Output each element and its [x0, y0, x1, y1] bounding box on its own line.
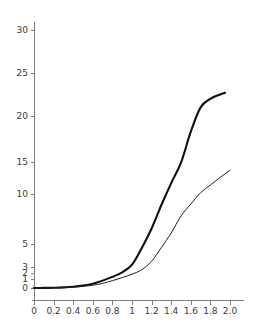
x-tick-label: 1.8 [203, 306, 218, 316]
plot-background [0, 0, 258, 328]
y-tick-label: 20 [17, 111, 29, 121]
y-tick-label: 5 [22, 239, 28, 249]
x-tick-label: 1 [129, 306, 135, 316]
x-tick-label: 0.6 [86, 306, 101, 316]
x-tick-label: 0 [31, 306, 37, 316]
y-tick-label: 30 [17, 25, 29, 35]
x-tick-label: 0.4 [66, 306, 81, 316]
y-tick-label: 15 [17, 157, 28, 167]
y-tick-label: 25 [17, 68, 28, 78]
y-tick-label: 10 [17, 189, 29, 199]
x-tick-label: 0.2 [46, 306, 60, 316]
chart-figure: 012351015202530 00.20.40.60.811.21.41.61… [0, 0, 258, 328]
x-tick-label: 2.0 [223, 306, 238, 316]
x-tick-label: 1.6 [184, 306, 199, 316]
y-tick-label: 3 [22, 262, 28, 272]
function-plot: 012351015202530 00.20.40.60.811.21.41.61… [0, 0, 258, 328]
x-tick-label: 0.8 [105, 306, 120, 316]
y-tick-label: 0 [22, 283, 28, 293]
x-tick-label: 1.2 [144, 306, 158, 316]
x-tick-label: 1.4 [164, 306, 179, 316]
